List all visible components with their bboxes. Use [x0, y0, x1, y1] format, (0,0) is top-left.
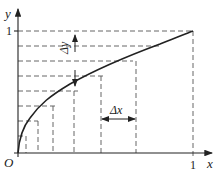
curve: [18, 31, 193, 153]
y-axis-label: y: [5, 7, 11, 20]
diagram-svg: [0, 0, 221, 174]
y-tick-label: 1: [6, 25, 12, 37]
x-tick-label: 1: [190, 159, 196, 171]
diagram-canvas: y 1 O 1 x Δy Δx: [0, 0, 221, 174]
vertical-guide-lines: [26, 31, 193, 158]
origin-label: O: [4, 156, 13, 169]
delta-y-label: Δy: [58, 42, 70, 54]
x-axis-label: x: [207, 157, 213, 170]
delta-x-label: Δx: [110, 104, 122, 116]
horizontal-guide-lines: [18, 31, 193, 136]
